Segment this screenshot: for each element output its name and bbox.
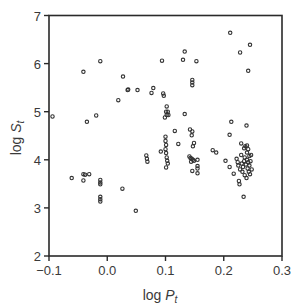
data-point (173, 129, 176, 132)
data-point (134, 209, 137, 212)
data-point (191, 145, 194, 148)
data-point (224, 159, 227, 162)
y-tick-label: 2 (34, 249, 41, 264)
data-point (164, 143, 167, 146)
data-point (250, 168, 253, 171)
data-point (127, 88, 130, 91)
data-point (165, 105, 168, 108)
data-point (150, 91, 153, 94)
data-point (88, 173, 91, 176)
data-point (159, 150, 162, 153)
data-point (70, 176, 73, 179)
data-point (245, 124, 248, 127)
data-point (160, 59, 163, 62)
data-point (99, 200, 102, 203)
data-point (152, 86, 155, 89)
data-point (164, 139, 167, 142)
data-point (181, 58, 184, 61)
data-point (228, 165, 231, 168)
data-point (164, 148, 167, 151)
data-point (248, 173, 251, 176)
data-point (191, 130, 194, 133)
y-tick-label: 3 (34, 201, 41, 216)
data-point (99, 60, 102, 63)
data-point (247, 69, 250, 72)
data-point (240, 153, 243, 156)
y-axis-title: log St (8, 119, 26, 155)
data-point (121, 75, 124, 78)
data-point (82, 70, 85, 73)
data-point (191, 169, 194, 172)
data-point (164, 166, 167, 169)
plot-frame (49, 16, 282, 257)
data-point (85, 120, 88, 123)
data-point (117, 99, 120, 102)
data-point (238, 51, 241, 54)
data-points (51, 31, 254, 212)
data-point (51, 115, 54, 118)
data-point (195, 60, 198, 63)
data-point (249, 160, 252, 163)
data-point (164, 135, 167, 138)
data-point (211, 149, 214, 152)
data-point (162, 94, 165, 97)
y-tick-label: 7 (34, 9, 41, 24)
y-axis-ticks: 234567 (34, 9, 49, 265)
x-axis-title: log Pt (143, 287, 179, 305)
y-tick-label: 5 (34, 105, 41, 120)
y-tick-label: 6 (34, 57, 41, 72)
data-point (248, 43, 251, 46)
x-tick-label: 0.0 (98, 263, 116, 278)
data-point (196, 167, 199, 170)
data-point (236, 161, 239, 164)
data-point (242, 195, 245, 198)
data-point (183, 112, 186, 115)
data-point (196, 172, 199, 175)
data-point (183, 50, 186, 53)
data-point (136, 88, 139, 91)
data-point (241, 170, 244, 173)
data-point (121, 187, 124, 190)
data-point (228, 133, 231, 136)
x-axis-ticks: −0.10.00.10.20.3 (36, 256, 291, 278)
data-point (229, 31, 232, 34)
data-point (196, 158, 199, 161)
data-point (191, 84, 194, 87)
scatter-chart: −0.10.00.10.20.3 234567 log Pt log St (0, 0, 302, 308)
data-point (95, 114, 98, 117)
data-point (237, 164, 240, 167)
y-tick-label: 4 (34, 153, 41, 168)
data-point (82, 179, 85, 182)
x-tick-label: 0.1 (156, 263, 174, 278)
data-point (190, 134, 193, 137)
data-point (215, 151, 218, 154)
data-point (166, 162, 169, 165)
data-point (245, 176, 248, 179)
data-point (165, 156, 168, 159)
x-tick-label: 0.2 (215, 263, 233, 278)
data-point (177, 142, 180, 145)
x-tick-label: −0.1 (36, 263, 62, 278)
data-point (232, 172, 235, 175)
data-point (247, 148, 250, 151)
data-point (240, 142, 243, 145)
x-tick-label: 0.3 (273, 263, 291, 278)
data-point (146, 160, 149, 163)
data-point (230, 120, 233, 123)
data-point (248, 164, 251, 167)
data-point (164, 151, 167, 154)
plot-area-border (49, 16, 282, 257)
data-point (238, 183, 241, 186)
